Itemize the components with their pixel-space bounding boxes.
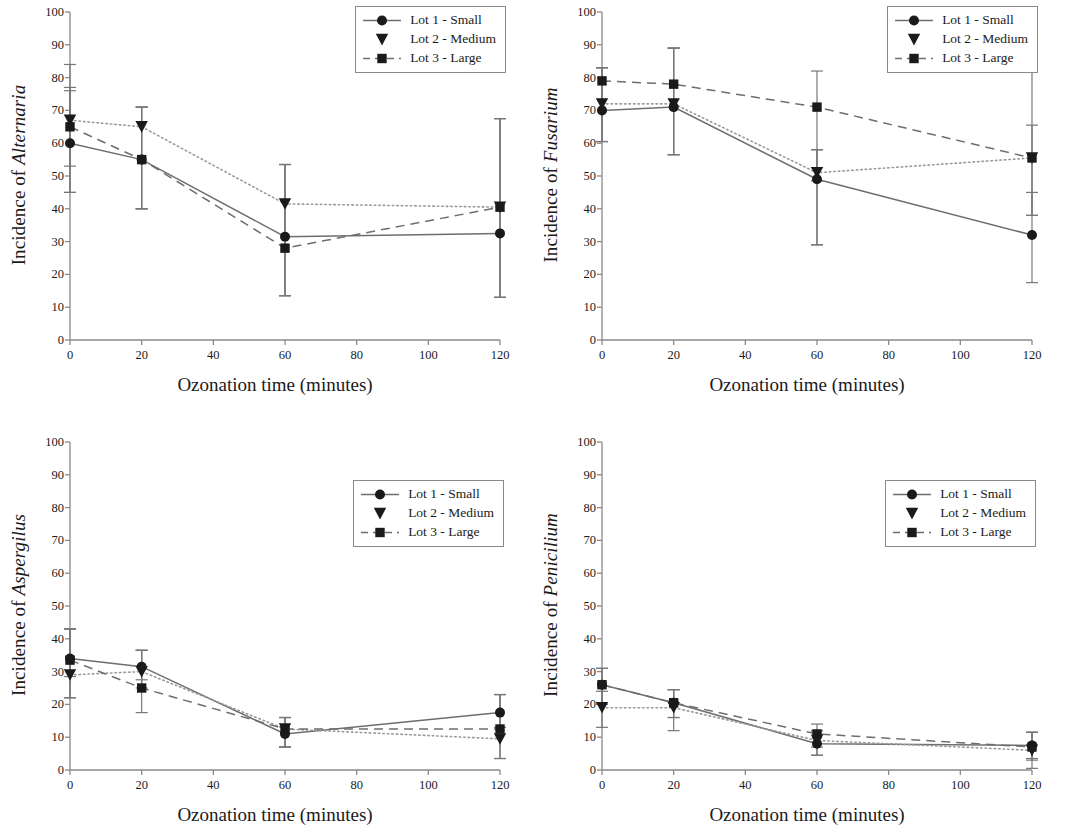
- legend-key-square-icon: [893, 51, 935, 66]
- plot-area: 0102030405060708090100020406080100120Lot…: [70, 442, 500, 770]
- legend-item-label: Lot 2 - Medium: [410, 30, 496, 49]
- legend-item-label: Lot 3 - Large: [940, 523, 1011, 542]
- plot-area: 0102030405060708090100020406080100120Lot…: [602, 12, 1032, 340]
- data-point-square-marker: [280, 243, 289, 252]
- y-axis-tick-label: 100: [577, 5, 596, 20]
- legend-key-triangle-icon: [893, 32, 935, 47]
- y-axis-tick-label: 60: [584, 566, 597, 581]
- legend-item: Lot 2 - Medium: [359, 504, 494, 523]
- y-axis-tick-label: 90: [52, 467, 65, 482]
- data-point-square-marker: [65, 655, 74, 664]
- x-axis-tick-label: 120: [491, 348, 510, 363]
- y-axis-tick-label: 0: [590, 333, 596, 348]
- legend-item-label: Lot 3 - Large: [942, 49, 1013, 68]
- legend-item-label: Lot 2 - Medium: [942, 30, 1028, 49]
- data-point-square-marker: [495, 724, 504, 733]
- data-point-square-marker: [812, 729, 821, 738]
- legend-item: Lot 1 - Small: [893, 11, 1028, 30]
- y-axis-tick-label: 90: [52, 37, 65, 52]
- x-axis-tick-label: 100: [951, 348, 970, 363]
- legend-item-label: Lot 1 - Small: [410, 11, 482, 30]
- legend-key-svg: [891, 487, 933, 502]
- y-axis-tick-label: 0: [58, 763, 64, 778]
- y-axis-label-prefix: Incidence of: [8, 165, 29, 265]
- y-axis-tick-label: 10: [52, 730, 65, 745]
- data-point-triangle-marker: [374, 508, 386, 520]
- legend-item-label: Lot 3 - Large: [410, 49, 481, 68]
- y-axis-tick-label: 70: [52, 533, 65, 548]
- x-axis-tick-label: 20: [135, 778, 148, 793]
- legend-item: Lot 2 - Medium: [361, 30, 496, 49]
- legend-item: Lot 3 - Large: [893, 49, 1028, 68]
- y-axis-tick-label: 80: [52, 500, 65, 515]
- data-point-square-marker: [1027, 742, 1036, 751]
- x-axis-tick-label: 40: [207, 348, 220, 363]
- data-point-square-marker: [909, 54, 918, 63]
- legend-item: Lot 3 - Large: [891, 523, 1026, 542]
- x-axis-tick-label: 40: [739, 778, 752, 793]
- legend-key-svg: [361, 32, 403, 47]
- error-bar: [811, 71, 823, 181]
- error-bar: [279, 165, 291, 296]
- y-axis-label-genus: Fusarium: [540, 87, 561, 162]
- legend-key-square-icon: [891, 525, 933, 540]
- x-axis-label: Ozonation time (minutes): [40, 374, 510, 396]
- data-point-circle-marker: [280, 232, 290, 242]
- data-point-square-marker: [65, 122, 74, 131]
- y-axis-tick-label: 50: [52, 599, 65, 614]
- data-point-circle-marker: [377, 15, 387, 25]
- y-axis-tick-label: 70: [52, 103, 65, 118]
- legend-key-svg: [359, 525, 401, 540]
- legend-key-square-icon: [359, 525, 401, 540]
- legend-key-svg: [893, 13, 935, 28]
- y-axis-label: Incidence of Aspergilus: [2, 440, 36, 770]
- legend-key-square-icon: [361, 51, 403, 66]
- y-axis-label-prefix: Incidence of: [540, 596, 561, 696]
- legend-key-circle-icon: [359, 487, 401, 502]
- data-point-square-marker: [280, 724, 289, 733]
- x-axis-tick-label: 100: [951, 778, 970, 793]
- panel-penicilium: Incidence of Penicilium 0102030405060708…: [532, 430, 1065, 836]
- plot-area: 0102030405060708090100020406080100120Lot…: [602, 442, 1032, 770]
- legend-key-triangle-icon: [359, 506, 401, 521]
- y-axis-tick-label: 0: [590, 763, 596, 778]
- y-axis-tick-label: 80: [584, 500, 597, 515]
- legend-key-circle-icon: [891, 487, 933, 502]
- legend-key-svg: [361, 51, 403, 66]
- chart-legend: Lot 1 - SmallLot 2 - MediumLot 3 - Large: [885, 480, 1036, 547]
- legend-key-svg: [359, 487, 401, 502]
- y-axis-label-prefix: Incidence of: [8, 596, 29, 696]
- y-axis-tick-label: 20: [52, 697, 65, 712]
- legend-key-svg: [361, 13, 403, 28]
- plot-area: 0102030405060708090100020406080100120Lot…: [70, 12, 500, 340]
- data-point-triangle-marker: [908, 34, 920, 46]
- y-axis-tick-label: 20: [52, 267, 65, 282]
- x-axis-tick-label: 60: [811, 348, 824, 363]
- y-axis-tick-label: 80: [584, 70, 597, 85]
- y-axis-tick-label: 60: [52, 566, 65, 581]
- x-axis-tick-label: 20: [135, 348, 148, 363]
- legend-item: Lot 1 - Small: [891, 485, 1026, 504]
- legend-item: Lot 3 - Large: [361, 49, 496, 68]
- y-axis-tick-label: 10: [584, 730, 597, 745]
- legend-key-triangle-icon: [361, 32, 403, 47]
- y-axis-tick-label: 100: [45, 435, 64, 450]
- data-point-circle-marker: [375, 489, 385, 499]
- legend-item-label: Lot 3 - Large: [408, 523, 479, 542]
- x-axis-tick-label: 0: [67, 348, 73, 363]
- legend-item-label: Lot 1 - Small: [940, 485, 1012, 504]
- x-axis-tick-label: 120: [1023, 778, 1042, 793]
- y-axis-tick-label: 60: [52, 136, 65, 151]
- data-point-circle-marker: [495, 708, 505, 718]
- y-axis-tick-label: 60: [584, 136, 597, 151]
- data-point-square-marker: [597, 680, 606, 689]
- data-point-circle-marker: [1027, 230, 1037, 240]
- x-axis-tick-label: 60: [279, 778, 292, 793]
- x-axis-tick-label: 100: [419, 348, 438, 363]
- y-axis-tick-label: 20: [584, 697, 597, 712]
- x-axis-tick-label: 120: [491, 778, 510, 793]
- x-axis-tick-label: 20: [667, 348, 680, 363]
- panel-alternaria: Incidence of Alternaria 0102030405060708…: [0, 0, 533, 418]
- legend-item: Lot 1 - Small: [359, 485, 494, 504]
- legend-item-label: Lot 1 - Small: [942, 11, 1014, 30]
